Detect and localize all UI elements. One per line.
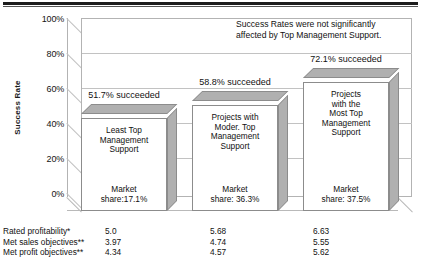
table-cell: 5.0 [105,226,117,237]
y-tick-100: 100% [18,14,64,24]
table-row: Met sales objectives** 3.97 4.74 5.55 [3,237,418,248]
bar-side-face-1 [167,108,177,211]
chart-annotation: Success Rates were not significantly aff… [236,19,416,40]
table-row-label: Met profit objectives** [3,247,83,258]
bar-caption-line: Support [304,128,388,138]
bar-caption-line: Support [193,142,277,152]
bar-front-face-3: Projects with the Most Top Management Su… [303,82,389,211]
table-cell: 6.63 [313,226,329,237]
y-tick-40: 40% [18,119,64,129]
bar-caption-3: Projects with the Most Top Management Su… [304,90,388,138]
bar-front-face-2: Projects with Moder. Top Management Supp… [192,105,278,211]
table-row: Rated profitability* 5.0 5.68 6.63 [3,226,418,237]
top-rule [3,2,418,5]
bar-caption-2: Projects with Moder. Top Management Supp… [193,113,277,151]
market-share-line: share: 37.5% [304,195,388,205]
bar-value-label-1: 51.7% succeeded [81,90,167,100]
table-cell: 4.57 [210,247,226,258]
figure-root: Success Rate 100% 80% 60% 40% 20% 0% [0,0,421,269]
table-cell: 3.97 [105,237,121,248]
top-rule-secondary [3,6,418,7]
table-cell: 5.62 [313,247,329,258]
bar-side-face-3 [389,72,399,211]
plot-area: 51.7% succeeded Least Top Management Sup… [67,18,412,211]
table-cell: 4.34 [105,247,121,258]
y-tick-20: 20% [18,154,64,164]
table-cell: 5.68 [210,226,226,237]
bar-market-share-2: Market share: 36.3% [193,185,277,204]
floor-edge-right [397,197,413,213]
bar-side-face-2 [278,95,288,211]
bar-value-label-3: 72.1% succeeded [303,54,389,64]
annotation-line-1: Success Rates were not significantly [236,19,416,30]
bar-top-face-1 [81,104,177,114]
bar-group-most-support[interactable]: 72.1% succeeded Projects with the Most T… [303,68,389,211]
y-tick-80: 80% [18,49,64,59]
bar-top-face-3 [303,68,399,78]
bar-caption-line: Support [82,145,166,155]
y-tick-0: 0% [18,189,64,199]
market-share-line: share: 36.3% [193,195,277,205]
table-cell: 5.55 [313,237,329,248]
table-row: Met profit objectives** 4.34 4.57 5.62 [3,247,418,258]
bar-group-least-support[interactable]: 51.7% succeeded Least Top Management Sup… [81,104,167,211]
bar-group-moderate-support[interactable]: 58.8% succeeded Projects with Moder. Top… [192,91,278,211]
table-row-label: Met sales objectives** [3,237,84,248]
bar-market-share-3: Market share: 37.5% [304,185,388,204]
bar-market-share-1: Market share:17.1% [82,185,166,204]
annotation-line-2: affected by Top Management Support. [236,30,416,41]
y-tick-60: 60% [18,84,64,94]
bar-top-face-2 [192,91,288,101]
bar-front-face-1: Least Top Management Support Market shar… [81,118,167,211]
bar-caption-1: Least Top Management Support [82,126,166,155]
metrics-table: Rated profitability* 5.0 5.68 6.63 Met s… [3,226,418,258]
table-row-label: Rated profitability* [3,226,70,237]
market-share-line: share:17.1% [82,195,166,205]
table-cell: 4.74 [210,237,226,248]
bar-value-label-2: 58.8% succeeded [192,77,278,87]
